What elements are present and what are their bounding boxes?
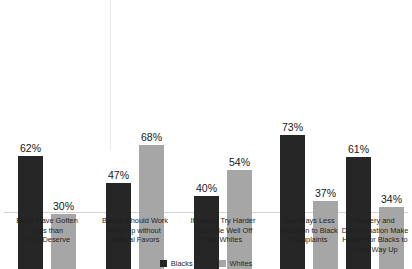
legend-label: Blacks (171, 259, 193, 269)
category-label-line: Attention to Black (272, 226, 346, 236)
category-label-line: Complaints (272, 235, 346, 245)
legend-item[interactable]: Blacks (160, 259, 193, 269)
legend-item[interactable]: Whites (219, 259, 253, 269)
bar-value-label: 54% (229, 156, 250, 168)
category-label-line: Like Whites (186, 235, 260, 245)
category-label-line: Harder for Blacks to (338, 235, 412, 245)
category-label-line: Gov. Pays Less (272, 216, 346, 226)
category-label: Blacks Should WorkWay Up withoutSpecial … (98, 216, 172, 245)
category-label-line: Special Favors (98, 235, 172, 245)
category-label-line: Black Have Gotten (10, 216, 84, 226)
bar-value-label: 62% (20, 142, 41, 154)
category-label-line: Less than (10, 226, 84, 236)
legend-label: Whites (230, 259, 253, 269)
category-label: If Blacks Try HarderCould Be Well OffLik… (186, 216, 260, 245)
category-label-line: Could Be Well Off (186, 226, 260, 236)
grouped-bar-chart: 62%30%47%68%40%54%73%37%61%34% Black Hav… (0, 0, 412, 269)
category-label-line: Discrimination Make (338, 226, 412, 236)
category-label: Black Have GottenLess thanThey Deserve (10, 216, 84, 245)
category-label: Slavery andDiscrimination MakeHarder for… (338, 216, 412, 254)
category-label-line: If Blacks Try Harder (186, 216, 260, 226)
bar-value-label: 61% (348, 143, 369, 155)
legend-swatch-icon (219, 260, 226, 267)
category-label-line: Way Up without (98, 226, 172, 236)
bar-value-label: 37% (315, 187, 336, 199)
bar-value-label: 34% (381, 193, 402, 205)
legend-swatch-icon (160, 260, 167, 267)
bar-value-label: 40% (196, 182, 217, 194)
bar-value-label: 30% (53, 200, 74, 212)
bar-value-label: 47% (108, 169, 129, 181)
category-label-line: Blacks Should Work (98, 216, 172, 226)
category-label: Gov. Pays LessAttention to BlackComplain… (272, 216, 346, 245)
category-label-line: Slavery and (338, 216, 412, 226)
category-axis-labels: Black Have GottenLess thanThey DeserveBl… (0, 216, 412, 258)
category-label-line: They Deserve (10, 235, 84, 245)
chart-legend: BlacksWhites (0, 259, 412, 269)
bar-value-label: 73% (282, 121, 303, 133)
category-label-line: Work Way Up (338, 245, 412, 255)
bar-value-label: 68% (141, 131, 162, 143)
